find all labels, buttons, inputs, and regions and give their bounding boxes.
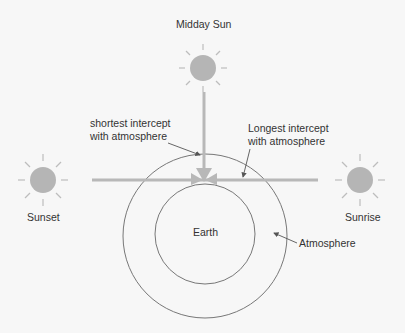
longest-intercept-pointer bbox=[243, 149, 250, 177]
atmosphere-label: Atmosphere bbox=[299, 237, 356, 250]
sunrise-label: Sunrise bbox=[345, 211, 381, 224]
midday-sun-icon bbox=[179, 44, 227, 92]
shortest-intercept-line2: with atmosphere bbox=[90, 130, 171, 143]
sunrise-sun-icon bbox=[335, 154, 385, 206]
sunset-label: Sunset bbox=[27, 211, 60, 224]
atmosphere-pointer bbox=[274, 233, 297, 243]
shortest-intercept-pointer bbox=[168, 143, 200, 155]
longest-intercept-line2: with atmosphere bbox=[248, 135, 329, 148]
longest-intercept-line1: Longest intercept bbox=[248, 122, 329, 135]
earth-label: Earth bbox=[193, 226, 218, 239]
midday-sun-label: Midday Sun bbox=[176, 18, 231, 31]
sunlight-path-diagram bbox=[0, 0, 405, 333]
shortest-intercept-label: shortest intercept with atmosphere bbox=[90, 117, 171, 143]
sunset-sun-icon bbox=[18, 154, 68, 206]
shortest-intercept-line1: shortest intercept bbox=[90, 117, 171, 130]
longest-intercept-label: Longest intercept with atmosphere bbox=[248, 122, 329, 148]
